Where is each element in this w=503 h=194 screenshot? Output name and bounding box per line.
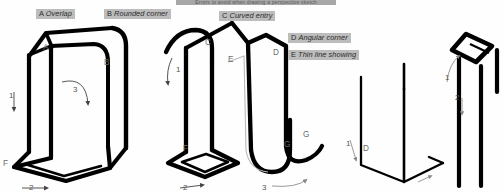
point-label-D3: D: [363, 144, 369, 153]
callout-chip-A: A Overlap: [36, 9, 75, 19]
point-label-G2b: G: [303, 130, 309, 139]
callout-letter-A: A: [39, 9, 44, 18]
stroke-number-3-fig1: 3: [73, 85, 78, 94]
stroke-number-1-fig3: 1: [346, 139, 351, 148]
stroke-number-1-fig1: 1: [9, 91, 14, 100]
callout-letter-E: E: [291, 50, 296, 59]
diagram-canvas: Errors to avoid when drawing a perspecti…: [0, 0, 503, 194]
point-label-A1: A: [43, 43, 49, 52]
callout-chip-E: E Thin line showing: [288, 50, 359, 60]
callout-chip-C: C Curved entry: [219, 11, 275, 21]
callout-name-B: Rounded corner: [114, 9, 168, 18]
point-label-G2a: G: [284, 140, 290, 149]
figure-4-artwork: [452, 34, 497, 186]
point-label-F1: F: [3, 159, 8, 168]
point-label-B1: B: [104, 58, 110, 67]
callout-chip-B: B Rounded corner: [104, 9, 171, 19]
point-label-C2: C: [205, 38, 211, 47]
stroke-number-3-fig2: 3: [262, 183, 267, 192]
figure-2-artwork: [166, 23, 322, 177]
callout-chip-D: D Angular corner: [288, 33, 351, 43]
stroke-number-1-fig4: 1: [445, 73, 450, 82]
point-label-D2: D: [273, 48, 279, 57]
stroke-number-2-fig1: 2: [29, 183, 34, 192]
callout-name-D: Angular corner: [299, 33, 348, 42]
line-drawings: A B F C D E F G G D 1 2 3 1 2 3 1 1 2: [0, 0, 503, 194]
stroke-number-2-fig2: 2: [183, 183, 188, 192]
figure-3-artwork: [361, 64, 443, 182]
callout-letter-D: D: [291, 33, 296, 42]
point-label-F2: F: [183, 144, 188, 153]
callout-letter-C: C: [222, 11, 227, 20]
figure-1-artwork: [14, 28, 126, 181]
callout-name-E: Thin line showing: [298, 50, 356, 59]
stroke-number-2-fig4: 2: [455, 93, 460, 102]
callout-name-A: Overlap: [46, 9, 72, 18]
point-label-E2: E: [228, 55, 234, 64]
stroke-number-1-fig2: 1: [176, 65, 181, 74]
callout-name-C: Curved entry: [230, 11, 273, 20]
callout-letter-B: B: [107, 9, 112, 18]
